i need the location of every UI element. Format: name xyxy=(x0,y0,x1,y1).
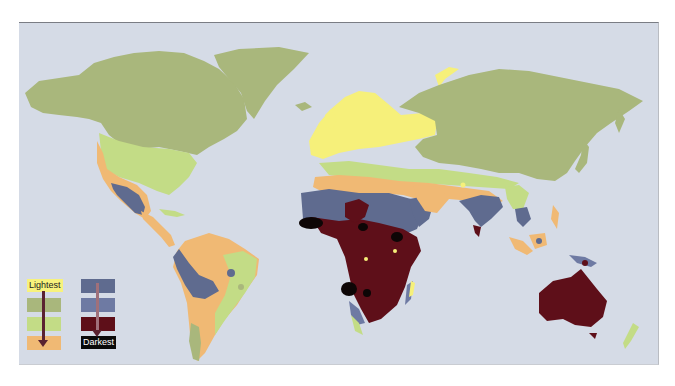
world-map-frame: Lightest Darkest xyxy=(19,22,659,365)
iceland-region xyxy=(295,102,312,111)
indochina-region xyxy=(515,207,531,227)
australia-region xyxy=(539,269,607,327)
africa-speck-2 xyxy=(393,249,397,253)
central-asia-speck xyxy=(461,183,466,188)
patagonia-region xyxy=(189,323,201,361)
ethiopia-darkest xyxy=(391,232,403,242)
new-zealand-region xyxy=(623,323,639,349)
asia-region xyxy=(399,69,643,181)
tasmania-region xyxy=(589,333,597,339)
legend-darkest-label: Darkest xyxy=(81,336,116,349)
indonesia-region xyxy=(509,237,533,255)
borneo-spot xyxy=(536,238,542,244)
zambia-darkest xyxy=(363,289,371,297)
africa-speck-1 xyxy=(364,257,368,261)
central-america-region xyxy=(141,211,175,247)
angola-darkest xyxy=(341,282,357,296)
south-india-region xyxy=(473,225,481,237)
legend-arrow-right xyxy=(96,283,99,331)
caribbean-region xyxy=(159,209,185,217)
west-africa-darkest xyxy=(299,217,323,229)
india-region xyxy=(459,195,503,227)
new-guinea-spot xyxy=(582,260,588,266)
central-africa-region xyxy=(311,217,421,323)
south-america-region xyxy=(173,233,259,361)
congo-darkest xyxy=(358,223,368,231)
mexico-region xyxy=(111,183,145,215)
legend: Lightest Darkest xyxy=(27,279,137,359)
brazil-spot xyxy=(238,284,244,290)
philippines-region xyxy=(551,205,559,229)
north-america-region xyxy=(25,51,247,155)
legend-arrow-left xyxy=(42,291,45,341)
southeast-asia-green xyxy=(505,185,529,209)
amazon-spot xyxy=(227,269,235,277)
